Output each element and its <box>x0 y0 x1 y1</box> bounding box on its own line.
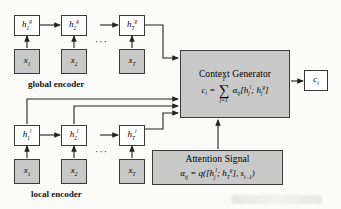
global-input-1: x1 <box>14 49 40 74</box>
attention-signal-formula: αtj = q([hjl; hTg], st−1) <box>180 168 255 180</box>
local-hidden-state-T: hTl <box>119 125 145 146</box>
global-input-2: x2 <box>61 49 87 74</box>
local-xT-label: xT <box>129 166 136 177</box>
local-hT-label: hTl <box>128 129 137 141</box>
local-input-T: xT <box>119 159 145 184</box>
local-x1-label: x1 <box>24 166 31 177</box>
context-vector-output: ct <box>304 70 328 91</box>
global-h2-label: h2g <box>69 19 79 31</box>
attention-signal-box: Attention Signal αtj = q([hjl; hTg], st−… <box>152 150 283 185</box>
global-hidden-state-1: h1g <box>14 15 40 36</box>
global-input-T: xT <box>119 49 145 74</box>
summation-symbol: T ∑ j=1 <box>218 83 229 98</box>
scan-artifact <box>232 195 322 204</box>
global-encoder-ellipsis: ··· <box>95 36 108 47</box>
context-generator-title: Context Generator <box>199 70 271 80</box>
context-generator-box: Context Generator ct = T ∑ j=1 αtj[hjl; … <box>180 50 290 118</box>
global-hidden-state-T: hTg <box>119 15 145 36</box>
global-hT-label: hTg <box>127 19 137 31</box>
global-encoder-label: global encoder <box>28 79 84 89</box>
local-x2-label: x2 <box>71 166 78 177</box>
local-input-2: x2 <box>61 159 87 184</box>
architecture-diagram: h1g h2g hTg ··· x1 x2 xT global encoder … <box>0 0 341 209</box>
local-hidden-state-1: h1l <box>14 125 40 146</box>
local-input-1: x1 <box>14 159 40 184</box>
global-x2-label: x2 <box>71 56 78 67</box>
global-xT-label: xT <box>129 56 136 67</box>
local-h1-label: h1l <box>23 129 32 141</box>
output-ct-label: ct <box>313 75 319 86</box>
attention-signal-title: Attention Signal <box>185 155 249 165</box>
global-h1-label: h1g <box>22 19 32 31</box>
local-h2-label: h2l <box>70 129 79 141</box>
local-encoder-ellipsis: ··· <box>95 146 108 157</box>
context-generator-formula: ct = T ∑ j=1 αtj[hjl; hjg] <box>201 83 268 98</box>
local-encoder-label: local encoder <box>31 189 82 199</box>
global-hidden-state-2: h2g <box>61 15 87 36</box>
local-hidden-state-2: h2l <box>61 125 87 146</box>
global-x1-label: x1 <box>24 56 31 67</box>
